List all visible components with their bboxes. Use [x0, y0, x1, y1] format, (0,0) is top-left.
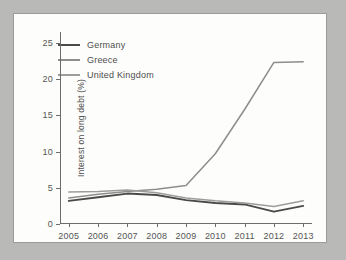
y-tick-label-10: 10	[42, 147, 53, 157]
chart-card: Interest on long debt (%) Germany Greece…	[13, 13, 327, 243]
figure-container: Interest on long debt (%) Germany Greece…	[9, 9, 335, 251]
y-tick-label-5: 5	[48, 183, 53, 193]
y-tick-0	[56, 224, 60, 225]
y-tick-label-25: 25	[42, 38, 53, 48]
x-tick-label-2011: 2011	[235, 231, 255, 241]
series-line-greece	[69, 62, 303, 198]
plot-area: 0510152025 20052006200720082009201020112…	[60, 32, 312, 224]
y-tick-label-20: 20	[42, 74, 53, 84]
series-lines	[60, 32, 312, 224]
x-tick-label-2012: 2012	[263, 231, 284, 241]
x-tick-label-2006: 2006	[88, 231, 109, 241]
x-tick-label-2009: 2009	[176, 231, 197, 241]
x-tick-label-2007: 2007	[117, 231, 138, 241]
x-tick-label-2008: 2008	[146, 231, 167, 241]
series-line-germany	[69, 194, 303, 212]
y-tick-label-0: 0	[48, 219, 53, 229]
x-tick-label-2010: 2010	[205, 231, 226, 241]
y-tick-label-15: 15	[42, 110, 53, 120]
x-tick-label-2005: 2005	[58, 231, 79, 241]
series-line-united-kingdom	[69, 190, 303, 207]
x-tick-label-2013: 2013	[293, 231, 314, 241]
